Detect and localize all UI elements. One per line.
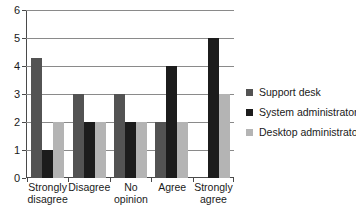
x-axis-label-line: agree <box>193 193 234 205</box>
x-axis-label-line: Strongly <box>193 181 234 193</box>
y-tick-mark <box>22 150 26 151</box>
y-tick-mark <box>22 94 26 95</box>
x-axis-labels: StronglydisagreeDisagreeNo opinionAgreeS… <box>27 181 234 205</box>
bar <box>84 122 95 178</box>
x-axis-label: Stronglydisagree <box>27 181 68 205</box>
y-tick-mark <box>22 10 26 11</box>
y-tick-label: 0 <box>14 172 20 184</box>
bar-group <box>68 10 109 178</box>
x-axis-label: Stronglyagree <box>193 181 234 205</box>
x-axis-label-line: Strongly <box>27 181 68 193</box>
x-axis-label: Agree <box>152 181 193 205</box>
legend-label: Support desk <box>259 86 321 98</box>
bar <box>125 122 136 178</box>
y-tick-label: 2 <box>14 116 20 128</box>
bar <box>177 122 188 178</box>
legend-label: Desktop administrators <box>259 126 356 138</box>
bar <box>42 150 53 178</box>
legend-swatch-icon <box>246 109 253 116</box>
bar <box>219 94 230 178</box>
bar-groups <box>27 10 234 178</box>
bar <box>53 122 64 178</box>
y-tick-mark <box>22 178 26 179</box>
x-axis-label-line: Agree <box>152 181 193 193</box>
plot-area: 0123456 <box>26 10 234 178</box>
bar <box>208 38 219 178</box>
bar <box>95 122 106 178</box>
bar <box>136 122 147 178</box>
bar-group <box>110 10 151 178</box>
legend-item: System administrators <box>246 106 356 118</box>
legend-label: System administrators <box>259 106 356 118</box>
legend-swatch-icon <box>246 129 253 136</box>
legend-item: Desktop administrators <box>246 126 356 138</box>
x-axis-label-line: disagree <box>27 193 68 205</box>
x-axis-label-line: Disagree <box>68 181 110 193</box>
chart-legend: Support deskSystem administratorsDesktop… <box>246 86 356 146</box>
bar-group <box>193 10 234 178</box>
bar <box>31 58 42 178</box>
legend-item: Support desk <box>246 86 356 98</box>
y-tick-label: 4 <box>14 60 20 72</box>
y-tick-label: 6 <box>14 4 20 16</box>
bar-group <box>27 10 68 178</box>
x-axis-label-line: No opinion <box>110 181 151 205</box>
y-tick-label: 3 <box>14 88 20 100</box>
y-tick-label: 5 <box>14 32 20 44</box>
bar <box>155 122 166 178</box>
y-tick-label: 1 <box>14 144 20 156</box>
y-tick-mark <box>22 66 26 67</box>
bar <box>73 94 84 178</box>
y-tick-mark <box>22 122 26 123</box>
bar <box>166 66 177 178</box>
bar-group <box>151 10 192 178</box>
legend-swatch-icon <box>246 89 253 96</box>
x-axis-label: No opinion <box>110 181 151 205</box>
bar-chart: 0123456 StronglydisagreeDisagreeNo opini… <box>0 0 356 221</box>
bar <box>114 94 125 178</box>
x-axis-label: Disagree <box>68 181 110 205</box>
y-tick-mark <box>22 38 26 39</box>
